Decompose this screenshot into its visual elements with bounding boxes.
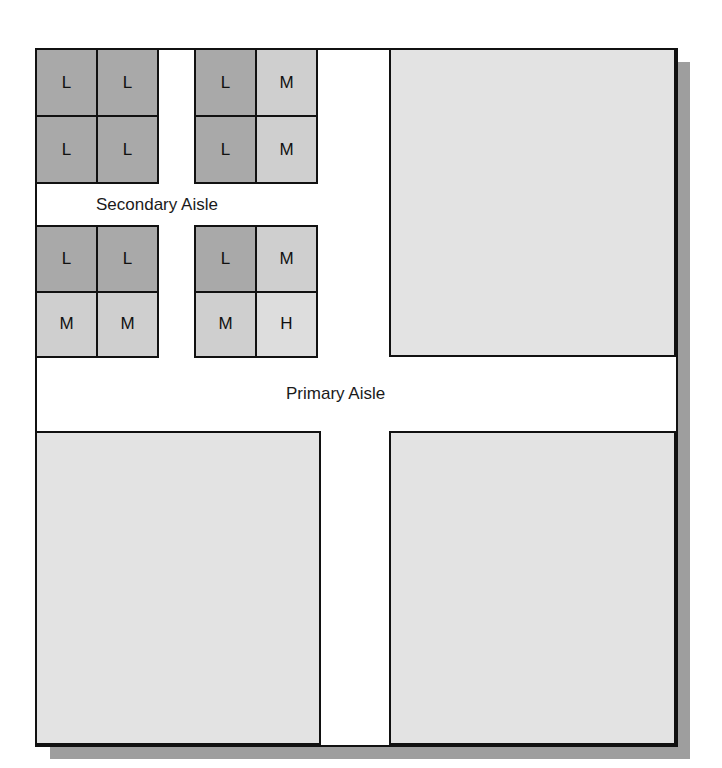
zone-cell: L xyxy=(98,227,157,291)
primary-aisle-label: Primary Aisle xyxy=(286,384,385,404)
zone-cell: M xyxy=(37,293,96,357)
block-bottom-left: L L M M xyxy=(35,225,159,358)
zone-cell: L xyxy=(196,50,255,115)
zone-cell: L xyxy=(37,117,96,182)
block-bottom-right: L M M H xyxy=(194,225,318,358)
secondary-aisle-label: Secondary Aisle xyxy=(96,195,218,215)
zone-cell: M xyxy=(257,50,316,115)
zone-cell: L xyxy=(37,227,96,291)
zone-cell: L xyxy=(196,117,255,182)
zone-cell: L xyxy=(98,117,157,182)
block-top-right: L M L M xyxy=(194,48,318,184)
area-bottom-left xyxy=(35,431,321,745)
zone-cell: M xyxy=(98,293,157,357)
zone-cell: H xyxy=(257,293,316,357)
area-top-right xyxy=(389,48,676,357)
block-top-left: L L L L xyxy=(35,48,159,184)
zone-cell: M xyxy=(196,293,255,357)
zone-cell: M xyxy=(257,227,316,291)
zone-cell: L xyxy=(196,227,255,291)
zone-cell: L xyxy=(37,50,96,115)
area-bottom-right xyxy=(389,431,676,745)
zone-cell: M xyxy=(257,117,316,182)
zone-cell: L xyxy=(98,50,157,115)
